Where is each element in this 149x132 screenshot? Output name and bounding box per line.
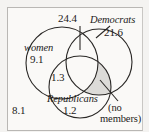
value-outside-all-sets: 8.1 (12, 105, 25, 116)
value-democrats-only: 21.6 (104, 27, 123, 38)
value-women-and-republicans: 1.3 (51, 72, 64, 83)
value-republicans-only: 1.2 (63, 105, 76, 116)
value-women-and-democrats: 24.4 (58, 13, 77, 24)
label-set-democrats: Democrats (90, 15, 135, 26)
label-no-members: (no members) (108, 103, 141, 124)
label-no-members-line2: members) (100, 114, 141, 125)
value-women-only: 9.1 (30, 54, 43, 65)
venn-diagram-figure: women 9.1 Democrats 21.6 Republicans 1.2… (0, 0, 149, 132)
